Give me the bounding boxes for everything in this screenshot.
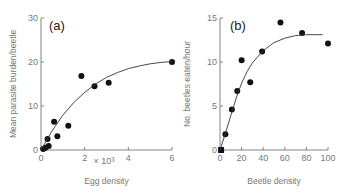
y-tick-label: 10 (207, 57, 217, 67)
x-tick-label: 80 (301, 153, 311, 163)
data-point (54, 133, 60, 139)
data-point (46, 143, 52, 149)
x-tick-label: 100 (320, 153, 335, 163)
panel-label: (b) (230, 18, 246, 33)
chart-b-plot: 051015020406080100Beetle densityNo. beet… (176, 0, 348, 193)
chart-a-plot: 01020300246× 10³Egg densityMean parasite… (0, 0, 176, 193)
x-tick-label: 40 (258, 153, 268, 163)
x-tick-label: 0 (38, 153, 43, 163)
y-tick-label: 10 (28, 101, 38, 111)
y-tick-label: 30 (28, 13, 38, 23)
x-axis-title: Egg density (84, 176, 129, 186)
data-point (106, 80, 112, 86)
x-tick-label: 6 (169, 153, 174, 163)
y-tick-label: 15 (207, 13, 217, 23)
data-point (277, 19, 283, 25)
x-multiplier-label: × 10³ (94, 156, 115, 166)
fitted-curve (41, 62, 172, 150)
x-tick-label: 0 (217, 153, 222, 163)
y-axis-title: No. beetles eaten/hour (182, 41, 192, 127)
y-tick-label: 0 (212, 145, 217, 155)
x-axis-title: Beetle density (247, 176, 301, 186)
panel-label: (a) (49, 18, 65, 33)
y-tick-label: 20 (28, 57, 38, 67)
y-axis-title: Mean parasite burden/beetle (8, 30, 18, 138)
data-point (325, 41, 331, 47)
data-point (78, 73, 84, 79)
x-tick-label: 2 (82, 153, 87, 163)
x-tick-label: 60 (280, 153, 290, 163)
y-tick-label: 0 (33, 145, 38, 155)
data-point (247, 79, 253, 85)
data-point (51, 119, 57, 125)
data-point (239, 57, 245, 63)
y-tick-label: 5 (212, 101, 217, 111)
x-tick-label: 20 (237, 153, 247, 163)
chart-panel-b: 051015020406080100Beetle densityNo. beet… (176, 0, 348, 193)
chart-panel-a: 01020300246× 10³Egg densityMean parasite… (0, 0, 176, 193)
x-tick-label: 4 (126, 153, 131, 163)
data-point (65, 123, 71, 129)
